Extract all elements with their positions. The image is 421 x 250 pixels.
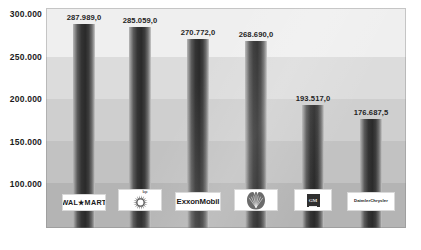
gm-emblem-icon: GM xyxy=(307,194,320,207)
shell-pecten-icon xyxy=(246,191,266,210)
company-logo-plate: DaimlerChrysler xyxy=(347,192,395,211)
y-axis-tick-label: 150.000 xyxy=(10,137,42,147)
y-axis-tick-label: 250.000 xyxy=(10,52,42,62)
company-logo-label: WAL★MART xyxy=(62,199,106,206)
bar-chart: 300.000 250.000 200.000 150.000 100.000 … xyxy=(0,0,421,250)
company-logo-label: DaimlerChrysler xyxy=(354,199,388,203)
bar-value-label: 193.517,0 xyxy=(296,94,331,103)
bar xyxy=(360,119,382,228)
company-logo-plate: ExxonMobil xyxy=(175,192,221,211)
y-axis: 300.000 250.000 200.000 150.000 100.000 xyxy=(0,0,46,250)
company-logo-plate: bp xyxy=(118,189,162,211)
company-logo-plate: GM xyxy=(294,189,332,211)
y-axis-tick-label: 100.000 xyxy=(10,179,42,189)
background-band xyxy=(46,57,406,99)
y-axis-tick-label: 300.000 xyxy=(10,9,42,19)
background-band xyxy=(46,141,406,183)
bar-value-label: 285.059,0 xyxy=(123,16,158,25)
y-axis-tick-label: 200.000 xyxy=(10,94,42,104)
bar-value-label: 268.690,0 xyxy=(239,30,274,39)
company-logo-label: ExxonMobil xyxy=(177,198,220,206)
bp-helios-icon xyxy=(132,194,149,211)
bar-value-label: 176.687,5 xyxy=(354,108,389,117)
bar-value-label: 270.772,0 xyxy=(181,28,216,37)
bar-value-label: 287.989,0 xyxy=(67,13,102,22)
company-logo-plate xyxy=(234,189,278,211)
background-band xyxy=(46,99,406,141)
company-logo-plate: WAL★MART xyxy=(62,194,106,211)
